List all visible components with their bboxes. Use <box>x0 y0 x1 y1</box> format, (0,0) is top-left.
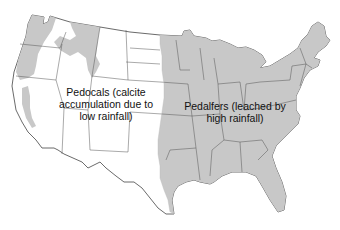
pedalfers-label-line-2: high rainfall) <box>176 112 294 124</box>
pedocals-label-line-3: low rainfall) <box>52 110 160 122</box>
soil-map: Pedocals (calcite accumulation due to lo… <box>0 0 340 230</box>
pedalfers-label: Pedalfers (leached by high rainfall) <box>176 100 294 124</box>
pedocals-label-line-2: accumulation due to <box>52 98 160 110</box>
pedocals-label-line-1: Pedocals (calcite <box>52 86 160 98</box>
pedalfers-label-line-1: Pedalfers (leached by <box>176 100 294 112</box>
pedocals-label: Pedocals (calcite accumulation due to lo… <box>52 86 160 122</box>
